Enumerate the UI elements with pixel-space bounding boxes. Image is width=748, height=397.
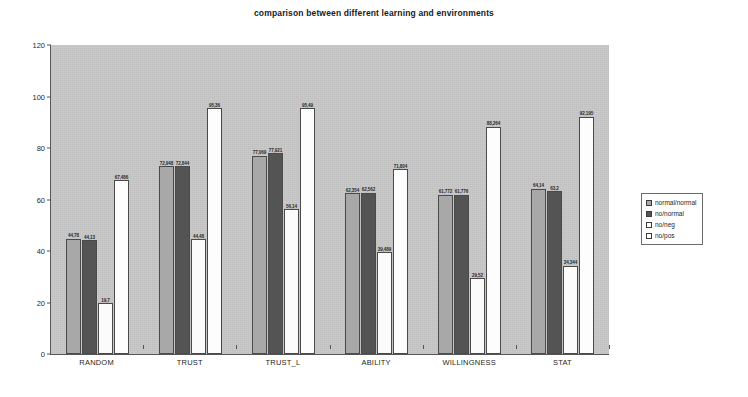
bar-slot: 62,354 [345,45,360,354]
bar[interactable]: 77,069 [252,156,267,354]
bar-value-label: 19,7 [101,298,110,303]
bar[interactable]: 62,354 [345,193,360,354]
bar-group: 64,1463,234,34492,195 [516,45,609,354]
bar-value-label: 44,48 [193,234,204,239]
bar-value-label: 44,78 [68,233,79,238]
bar-slot: 62,562 [361,45,376,354]
legend-item-label: no/pos [655,232,675,239]
bar-group: 62,35462,56239,48971,804 [330,45,423,354]
x-axis-tick-label: TRUST [143,358,236,367]
bar[interactable]: 88,264 [486,127,501,354]
bar-value-label: 88,264 [487,121,500,126]
bar-slot: 61,776 [454,45,469,354]
legend-swatch-icon [646,200,652,206]
bar[interactable]: 95,36 [207,108,222,354]
legend-item-label: no/neg [655,221,675,228]
bar-slot: 34,344 [563,45,578,354]
x-axis-tick-label: WILLINGNESS [423,358,516,367]
plot-area: 020406080100120 44,7844,1319,767,48672,9… [50,45,609,355]
bar[interactable]: 63,2 [547,191,562,354]
bar-group: 77,06977,92156,1495,49 [237,45,330,354]
bar[interactable]: 95,49 [300,108,315,354]
bar-slot: 56,14 [284,45,299,354]
bar-slot: 72,844 [175,45,190,354]
bar-slot: 95,36 [207,45,222,354]
bar[interactable]: 56,14 [284,209,299,354]
bar-slot: 88,264 [486,45,501,354]
bar-chart: comparison between different learning an… [0,0,748,397]
bar-value-label: 72,948 [160,161,173,166]
bar-value-label: 61,776 [455,189,468,194]
bar[interactable]: 61,776 [454,195,469,354]
bars-layer: 44,7844,1319,767,48672,94872,84444,4895,… [51,45,609,354]
bar[interactable]: 72,948 [159,166,174,354]
x-axis-tick-label: RANDOM [50,358,143,367]
bar[interactable]: 34,344 [563,266,578,354]
bar-value-label: 62,354 [346,188,359,193]
bar-slot: 92,195 [579,45,594,354]
x-axis-tick-mark [609,345,610,349]
bar-slot: 61,772 [438,45,453,354]
bar-value-label: 61,772 [439,189,452,194]
legend-item[interactable]: no/normal [646,208,697,219]
bar-value-label: 56,14 [286,204,297,209]
x-axis-tick-label: ABILITY [330,358,423,367]
chart-legend: normal/normalno/normalno/negno/pos [641,193,703,245]
legend-swatch-icon [646,222,652,228]
bar[interactable]: 44,78 [66,239,81,354]
bar[interactable]: 92,195 [579,117,594,354]
bar[interactable]: 39,489 [377,252,392,354]
bar-value-label: 63,2 [550,186,559,191]
chart-title: comparison between different learning an… [0,8,748,18]
bar-slot: 19,7 [98,45,113,354]
bar-value-label: 64,14 [533,183,544,188]
bar-value-label: 44,13 [84,235,95,240]
bar-value-label: 62,562 [362,187,375,192]
x-axis: RANDOMTRUSTTRUST_LABILITYWILLINGNESSSTAT [50,358,609,367]
bar-group: 61,77261,77629,5288,264 [423,45,516,354]
bar[interactable]: 44,13 [82,240,97,354]
bar-slot: 72,948 [159,45,174,354]
bar[interactable]: 72,844 [175,166,190,354]
legend-item[interactable]: normal/normal [646,197,697,208]
bar-value-label: 67,486 [115,175,128,180]
bar[interactable]: 19,7 [98,303,113,354]
bar-value-label: 77,921 [269,148,282,153]
bar[interactable]: 71,804 [393,169,408,354]
bar-slot: 29,52 [470,45,485,354]
bar-value-label: 34,344 [564,260,577,265]
bar-slot: 77,921 [268,45,283,354]
bar-value-label: 39,489 [378,247,391,252]
bar[interactable]: 67,486 [114,180,129,354]
bar-slot: 39,489 [377,45,392,354]
bar-group: 72,94872,84444,4895,36 [144,45,237,354]
bar-slot: 95,49 [300,45,315,354]
legend-item-label: normal/normal [655,199,697,206]
bar-slot: 77,069 [252,45,267,354]
bar-slot: 64,14 [531,45,546,354]
bar[interactable]: 44,48 [191,239,206,354]
bar-slot: 44,48 [191,45,206,354]
legend-item[interactable]: no/neg [646,219,697,230]
bar-slot: 63,2 [547,45,562,354]
bar[interactable]: 77,921 [268,153,283,354]
x-axis-tick-label: STAT [516,358,609,367]
bar-slot: 67,486 [114,45,129,354]
legend-swatch-icon [646,233,652,239]
bar-value-label: 95,36 [209,103,220,108]
bar-slot: 44,13 [82,45,97,354]
bar[interactable]: 62,562 [361,193,376,354]
bar-group: 44,7844,1319,767,486 [51,45,144,354]
bar-slot: 44,78 [66,45,81,354]
bar[interactable]: 29,52 [470,278,485,354]
bar[interactable]: 64,14 [531,189,546,354]
legend-swatch-icon [646,211,652,217]
legend-item[interactable]: no/pos [646,230,697,241]
legend-item-label: no/normal [655,210,684,217]
bar[interactable]: 61,772 [438,195,453,354]
bar-value-label: 71,804 [394,164,407,169]
bar-slot: 71,804 [393,45,408,354]
bar-value-label: 72,844 [176,161,189,166]
x-axis-tick-label: TRUST_L [236,358,329,367]
bar-value-label: 95,49 [302,103,313,108]
